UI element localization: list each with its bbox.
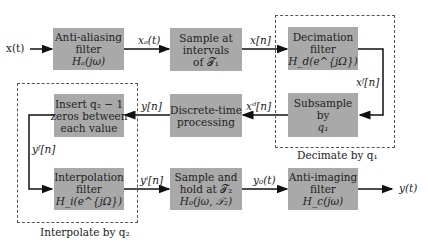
block-line: zeros between [50, 110, 127, 122]
signal-xd-label: xᵈ[n] [246, 100, 271, 112]
block-line: H₀(jω, 𝒯₂) [180, 195, 232, 207]
block-line: processing [177, 116, 235, 128]
signal-xa-label: xₐ(t) [138, 34, 160, 46]
sample-and-hold-block: Sample and hold at 𝒯₂ H₀(jω, 𝒯₂) [170, 168, 242, 210]
output-signal-label: y(t) [399, 182, 417, 194]
block-line: filter [310, 183, 336, 195]
signal-yn-label: y[n] [141, 100, 162, 112]
block-line: H_i(e^{jΩ}) [56, 195, 122, 207]
signal-xn-label: x[n] [250, 34, 271, 46]
block-line: by [317, 109, 330, 121]
block-line: Discrete-time [170, 104, 242, 116]
block-line: Hₐ(jω) [72, 55, 105, 67]
block-line: Interpolation [54, 171, 124, 183]
anti-aliasing-filter-block: Anti-aliasing filter Hₐ(jω) [53, 28, 124, 70]
block-line: filter [76, 183, 102, 195]
block-line: Anti-imaging [289, 171, 358, 183]
signal-yf-label: yᶠ[n] [32, 143, 55, 155]
signal-yo-label: y₀(t) [253, 174, 276, 186]
block-line: H_c(jω) [303, 195, 343, 207]
block-line: hold at 𝒯₂ [180, 183, 233, 195]
signal-yi-label: yⁱ[n] [140, 174, 163, 186]
signal-xf-label: xᶠ[n] [356, 76, 379, 88]
block-line: Subsample [294, 97, 353, 109]
block-line: Sample and [175, 171, 238, 183]
block-line: intervals [183, 44, 230, 56]
block-line: Sample at [179, 32, 233, 44]
block-line: q₁ [318, 121, 329, 133]
interpolation-filter-block: Interpolation filter H_i(e^{jΩ}) [54, 168, 124, 210]
block-line: Anti-aliasing [55, 31, 122, 43]
block-line: each value [61, 122, 118, 134]
subsample-block: Subsample by q₁ [288, 93, 358, 137]
anti-imaging-filter-block: Anti-imaging filter H_c(jω) [288, 168, 358, 210]
decimate-caption: Decimate by q₁ [297, 149, 378, 161]
discrete-time-processing-block: Discrete-time processing [170, 94, 242, 137]
decimation-filter-block: Decimation filter H_d(e^{jΩ}) [288, 27, 358, 70]
insert-zeros-block: Insert q₂ − 1 zeros between each value [54, 94, 124, 137]
block-line: Decimation [293, 31, 354, 43]
block-line: filter [310, 43, 336, 55]
input-signal-label: x(t) [6, 42, 24, 54]
block-line: filter [76, 43, 102, 55]
interpolate-caption: Interpolate by q₂ [40, 226, 130, 238]
block-line: of 𝒯₁ [193, 56, 219, 68]
block-line: H_d(e^{jΩ}) [288, 55, 358, 67]
block-line: Insert q₂ − 1 [55, 98, 123, 110]
sample-block: Sample at intervals of 𝒯₁ [170, 28, 242, 71]
